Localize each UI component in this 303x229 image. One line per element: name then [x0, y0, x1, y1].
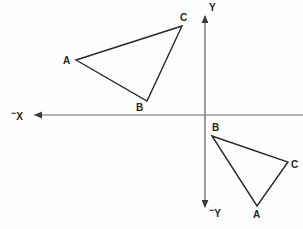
vertex-label-image-b: B — [212, 123, 219, 133]
vertex-label-preimage-b: B — [136, 103, 143, 113]
vertex-label-image-c: C — [291, 160, 298, 170]
x-axis-group — [34, 112, 303, 119]
diagram-canvas — [0, 0, 303, 229]
y-axis-down-arrowhead-icon — [202, 200, 209, 208]
triangle-image — [212, 136, 288, 206]
axis-label-y-negative: −Y — [209, 206, 221, 219]
y-axis-group — [202, 15, 209, 208]
axis-label-y-negative-letter: Y — [214, 208, 221, 219]
x-axis-arrowhead-icon — [34, 112, 42, 119]
coordinate-plane-figure: A B C B C A Y −Y −X — [0, 0, 303, 229]
vertex-label-preimage-c: C — [180, 13, 187, 23]
axis-label-y-positive: Y — [209, 3, 216, 13]
axis-label-x-negative: −X — [11, 109, 23, 122]
y-axis-up-arrowhead-icon — [202, 15, 209, 23]
triangle-preimage — [76, 26, 182, 101]
vertex-label-image-a: A — [253, 210, 260, 220]
axis-label-x-negative-letter: X — [16, 111, 23, 122]
vertex-label-preimage-a: A — [63, 56, 70, 66]
